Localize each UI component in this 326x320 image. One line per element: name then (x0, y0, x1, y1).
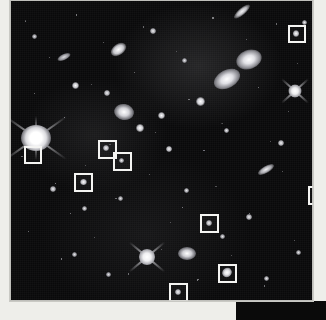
object-marker-box[interactable] (74, 173, 93, 192)
object-marker-box[interactable] (24, 146, 42, 164)
object-marker-box[interactable] (113, 152, 132, 171)
object-marker-box[interactable] (200, 214, 219, 233)
bottom-dark-panel (236, 301, 326, 320)
object-marker-box[interactable] (218, 264, 237, 283)
object-marker-box[interactable] (308, 186, 313, 205)
image-grain-texture (10, 0, 313, 301)
object-marker-box[interactable] (288, 25, 306, 43)
object-marker-box[interactable] (169, 283, 188, 301)
deep-field-image (10, 0, 313, 301)
screenshot-root: Deep field galaxy cluster image with mar… (0, 0, 326, 320)
